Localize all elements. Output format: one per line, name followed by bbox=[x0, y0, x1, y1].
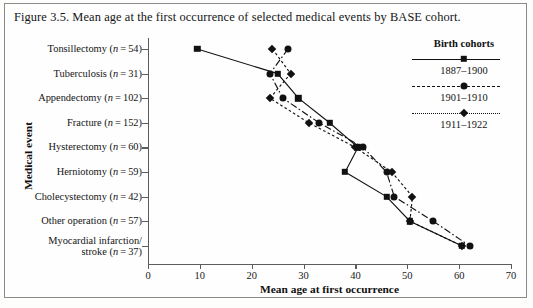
y-axis-category-label: Other operation (n = 57) bbox=[41, 215, 142, 227]
legend-entry: 1901–1910 bbox=[404, 81, 524, 103]
y-axis-category-label: Fracture (n = 152) bbox=[67, 117, 142, 129]
figure-page: Figure 3.5. Mean age at the first occurr… bbox=[0, 0, 533, 308]
diamond-marker bbox=[457, 242, 465, 250]
diamond-marker bbox=[305, 119, 313, 127]
x-axis-tick bbox=[200, 264, 201, 269]
y-axis-tick bbox=[142, 246, 148, 247]
data-point bbox=[383, 193, 389, 199]
legend-line-segment bbox=[412, 86, 500, 87]
y-axis-tick bbox=[142, 123, 148, 124]
y-axis-category-label: Hysterectomy (n = 60) bbox=[49, 142, 142, 154]
y-axis-line bbox=[148, 38, 149, 265]
data-point bbox=[285, 46, 292, 53]
circle-marker bbox=[279, 95, 286, 102]
diamond-marker bbox=[268, 45, 276, 53]
diamond-marker bbox=[408, 192, 416, 200]
x-axis-tick-label: 40 bbox=[350, 270, 361, 281]
legend-sample-line bbox=[404, 108, 524, 119]
data-point bbox=[430, 218, 437, 225]
data-point bbox=[391, 193, 398, 200]
legend-entries: 1887–19001901–19101911–1922 bbox=[404, 54, 524, 130]
data-point bbox=[269, 46, 275, 52]
legend-label: 1901–1910 bbox=[404, 92, 524, 103]
data-point bbox=[326, 120, 332, 126]
legend-marker-wrap bbox=[461, 110, 467, 116]
x-axis-tick-label: 10 bbox=[195, 270, 206, 281]
y-axis-category-label: Appendectomy (n = 102) bbox=[38, 92, 142, 104]
legend-label: 1887–1900 bbox=[404, 65, 524, 76]
x-axis-tick bbox=[511, 264, 512, 269]
data-point bbox=[352, 144, 358, 150]
diamond-marker bbox=[406, 217, 414, 225]
y-axis-tick bbox=[142, 172, 148, 173]
legend-line-segment bbox=[412, 59, 500, 60]
data-point bbox=[306, 120, 312, 126]
diamond-marker bbox=[351, 143, 359, 151]
x-axis-tick-label: 60 bbox=[454, 270, 465, 281]
square-marker bbox=[194, 46, 200, 52]
circle-marker bbox=[461, 83, 468, 90]
data-point bbox=[389, 169, 395, 175]
circle-marker bbox=[360, 144, 367, 151]
y-axis-tick bbox=[142, 74, 148, 75]
diamond-marker bbox=[266, 94, 274, 102]
legend-entry: 1887–1900 bbox=[404, 54, 524, 76]
x-axis-tick-label: 30 bbox=[298, 270, 309, 281]
x-axis-tick bbox=[355, 264, 356, 269]
legend: Birth cohorts 1887–19001901–19101911–192… bbox=[404, 38, 524, 135]
data-point bbox=[295, 95, 301, 101]
x-axis-title: Mean age at first occurrence bbox=[148, 283, 511, 295]
x-axis-line bbox=[148, 264, 511, 265]
data-point bbox=[274, 70, 280, 76]
diamond-marker bbox=[460, 109, 468, 117]
data-point bbox=[466, 242, 473, 249]
y-axis-tick bbox=[142, 98, 148, 99]
data-point bbox=[459, 243, 465, 249]
legend-line-segment bbox=[412, 113, 500, 114]
legend-entry: 1911–1922 bbox=[404, 108, 524, 130]
y-axis-tick bbox=[142, 49, 148, 50]
y-axis-tick bbox=[142, 197, 148, 198]
x-axis-tick bbox=[407, 264, 408, 269]
data-point bbox=[267, 95, 273, 101]
y-axis-tick bbox=[142, 147, 148, 148]
x-axis-tick-label: 20 bbox=[246, 270, 257, 281]
data-point bbox=[194, 46, 200, 52]
circle-marker bbox=[285, 46, 292, 53]
x-axis-tick-label: 0 bbox=[145, 270, 150, 281]
x-axis-tick bbox=[304, 264, 305, 269]
diamond-marker bbox=[286, 69, 294, 77]
y-axis-category-label: Tonsillectomy (n = 54) bbox=[48, 43, 142, 55]
y-axis-tick bbox=[142, 221, 148, 222]
circle-marker bbox=[266, 70, 273, 77]
data-point bbox=[409, 194, 415, 200]
legend-marker-wrap bbox=[461, 83, 468, 90]
legend-title: Birth cohorts bbox=[404, 38, 524, 49]
data-point bbox=[266, 70, 273, 77]
square-marker bbox=[295, 95, 301, 101]
diamond-marker bbox=[387, 168, 395, 176]
square-marker bbox=[461, 56, 467, 62]
x-axis-tick bbox=[148, 264, 149, 269]
square-marker bbox=[383, 193, 389, 199]
legend-marker-wrap bbox=[461, 56, 467, 62]
circle-marker bbox=[430, 218, 437, 225]
y-axis-category-label: Cholecystectomy (n = 42) bbox=[35, 191, 142, 203]
data-point bbox=[316, 119, 323, 126]
circle-marker bbox=[466, 242, 473, 249]
x-axis-tick bbox=[459, 264, 460, 269]
data-point bbox=[342, 169, 348, 175]
legend-sample-line bbox=[404, 54, 524, 65]
legend-label: 1911–1922 bbox=[404, 119, 524, 130]
y-axis-category-label: Tuberculosis (n = 31) bbox=[54, 68, 142, 80]
x-axis-tick bbox=[252, 264, 253, 269]
circle-marker bbox=[316, 119, 323, 126]
x-axis-tick-label: 50 bbox=[402, 270, 413, 281]
x-axis-tick-label: 70 bbox=[506, 270, 517, 281]
legend-sample-line bbox=[404, 81, 524, 92]
page-footnote bbox=[14, 300, 519, 307]
y-axis-title: Medical event bbox=[22, 81, 34, 231]
circle-marker bbox=[391, 193, 398, 200]
square-marker bbox=[342, 169, 348, 175]
data-point bbox=[360, 144, 367, 151]
